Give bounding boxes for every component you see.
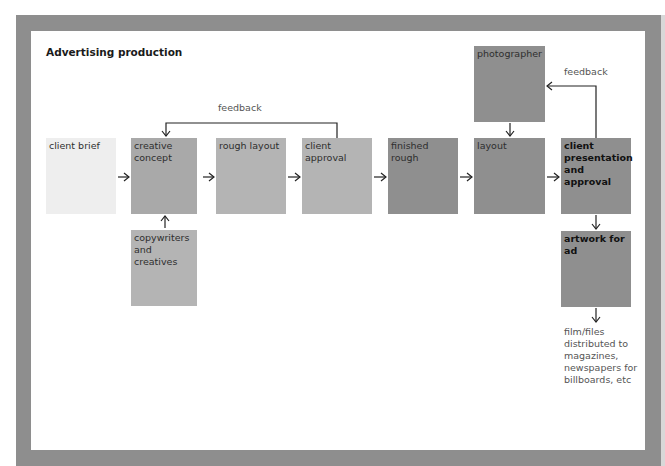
connector-arrows: [0, 0, 665, 466]
